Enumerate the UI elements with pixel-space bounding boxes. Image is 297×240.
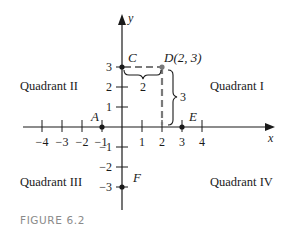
point-c-label: C (128, 50, 137, 65)
figure-caption: FIGURE 6.2 (20, 214, 85, 226)
point-f (119, 184, 124, 189)
y-tick-label: 2 (106, 80, 112, 94)
y-tick-label: −2 (99, 160, 112, 174)
projection-lines (124, 67, 162, 125)
x-tick-label: −4 (36, 135, 49, 149)
y-axis: y (118, 11, 134, 210)
horizontal-brace: 2 (124, 70, 161, 94)
y-tick-label: −3 (99, 180, 112, 194)
y-axis-label: y (127, 11, 134, 25)
vertical-brace: 3 (168, 70, 186, 125)
x-tick-label: −3 (56, 135, 69, 149)
quadrant-ii-label: Quadrant II (20, 79, 78, 93)
x-axis-arrow-icon (265, 123, 275, 131)
quadrant-iv-label: Quadrant IV (210, 175, 273, 189)
quadrant-labels: Quadrant II Quadrant I Quadrant III Quad… (20, 79, 273, 189)
y-tick-label: 1 (106, 100, 112, 114)
brace-icon (124, 70, 161, 79)
point-e (179, 124, 184, 129)
point-a-label: A (90, 109, 99, 124)
y-tick-label: −1 (99, 140, 112, 154)
y-axis-arrow-icon (118, 14, 126, 25)
point-d-label-text: D(2, 3) (163, 50, 202, 65)
point-e-label: E (188, 109, 197, 124)
x-tick-label: 1 (139, 135, 145, 149)
x-axis-label: x (267, 131, 274, 145)
vertical-distance-label: 3 (180, 90, 186, 104)
x-tick-label: 2 (159, 135, 165, 149)
brace-icon (168, 70, 177, 125)
x-tick-label: 4 (199, 135, 205, 149)
point-d-label: D(2, 3) (163, 50, 202, 65)
quadrant-iii-label: Quadrant III (20, 175, 82, 189)
x-tick-label: 3 (179, 135, 185, 149)
quadrant-i-label: Quadrant I (210, 79, 264, 93)
horizontal-distance-label: 2 (140, 80, 146, 94)
y-tick-label: 3 (106, 60, 112, 74)
point-d (159, 64, 164, 69)
coordinate-plane-figure: x y −4 −3 −2 −1 1 2 3 4 3 2 1 (0, 0, 297, 240)
point-c (119, 64, 124, 69)
x-tick-label: −2 (76, 135, 89, 149)
point-a (99, 124, 104, 129)
point-f-label: F (132, 170, 142, 185)
